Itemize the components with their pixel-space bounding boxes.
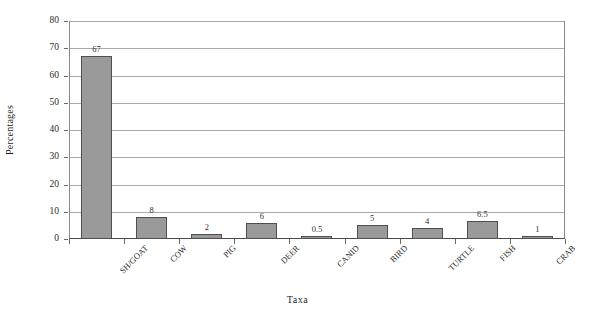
y-axis-tick-label: 10 <box>33 207 59 217</box>
y-axis-tick-mark <box>64 185 68 186</box>
x-axis-category-label: CRAB <box>554 243 577 266</box>
x-axis-category-label: FISH <box>498 243 518 263</box>
bar-value-label: 6 <box>234 212 289 221</box>
bar[interactable] <box>522 236 553 239</box>
y-axis-tick-mark <box>64 48 68 49</box>
bar-value-label: 67 <box>69 45 124 54</box>
bar-value-label: 5 <box>345 214 400 223</box>
y-axis-tick-mark <box>64 21 68 22</box>
y-axis-tick-mark <box>64 239 68 240</box>
x-axis-category-label: PIG <box>221 243 238 260</box>
bar-chart: Percentages 678260.5546.51 0102030405060… <box>0 0 595 325</box>
bar-slot <box>345 21 400 239</box>
x-axis-tick-mark <box>345 239 346 244</box>
bar[interactable] <box>412 228 443 239</box>
bar-value-label: 4 <box>400 217 455 226</box>
x-axis-category-label: TURTLE <box>447 243 477 273</box>
x-axis-category-label: BIRD <box>388 243 409 264</box>
y-axis-tick-mark <box>64 103 68 104</box>
bar-slot <box>289 21 344 239</box>
x-axis-tick-mark <box>124 239 125 244</box>
bar[interactable] <box>467 221 498 239</box>
y-axis-tick-label: 30 <box>33 152 59 162</box>
y-axis-tick-label: 40 <box>33 125 59 135</box>
bar-value-label: 2 <box>179 223 234 232</box>
bar-slot <box>179 21 234 239</box>
bar-slot <box>510 21 565 239</box>
bar-value-label: 6.5 <box>455 210 510 219</box>
bar-slot <box>234 21 289 239</box>
bar-value-label: 0.5 <box>289 225 344 234</box>
bar-slot <box>455 21 510 239</box>
y-axis-tick-label: 80 <box>33 16 59 26</box>
y-axis-tick-mark <box>64 212 68 213</box>
bar-slot <box>400 21 455 239</box>
y-axis-title: Percentages <box>4 60 18 200</box>
bars-layer: 678260.5546.51 <box>69 21 565 239</box>
x-axis-title: Taxa <box>0 294 595 305</box>
bar-value-label: 1 <box>510 225 565 234</box>
x-axis-tick-mark <box>455 239 456 244</box>
bar[interactable] <box>81 56 112 239</box>
x-axis-tick-mark <box>565 239 566 244</box>
y-axis-tick-mark <box>64 130 68 131</box>
y-axis-tick-label: 70 <box>33 43 59 53</box>
bar[interactable] <box>191 234 222 239</box>
x-axis-tick-mark <box>69 239 70 244</box>
x-axis-category-label: SH/GOAT <box>117 243 149 275</box>
bar[interactable] <box>246 223 277 239</box>
x-axis-category-label: CANID <box>335 243 361 269</box>
x-axis-category-label: DEER <box>278 243 301 266</box>
bar[interactable] <box>136 217 167 239</box>
y-axis-tick-label: 50 <box>33 98 59 108</box>
x-axis-category-label: COW <box>167 243 188 264</box>
y-axis-tick-mark <box>64 157 68 158</box>
y-axis-tick-label: 60 <box>33 71 59 81</box>
bar-value-label: 8 <box>124 206 179 215</box>
x-axis-tick-mark <box>289 239 290 244</box>
bar[interactable] <box>301 236 332 239</box>
y-axis-tick-label: 20 <box>33 180 59 190</box>
x-axis-tick-mark <box>234 239 235 244</box>
y-axis-tick-mark <box>64 76 68 77</box>
y-axis-tick-label: 0 <box>33 234 59 244</box>
bar[interactable] <box>357 225 388 239</box>
